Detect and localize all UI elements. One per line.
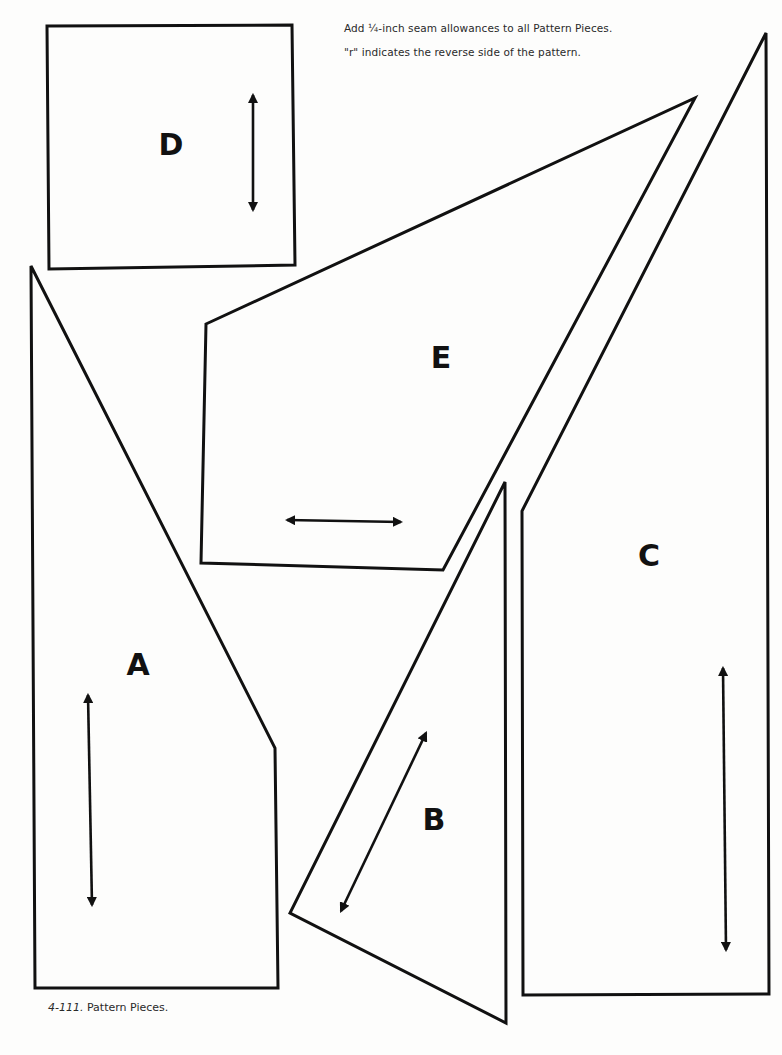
piece-label-e: E — [431, 340, 452, 375]
piece-label-c: C — [638, 538, 660, 573]
figure-caption-text: Pattern Pieces. — [87, 1001, 168, 1014]
figure-caption: 4-111. Pattern Pieces. — [48, 1001, 168, 1014]
pattern-piece-e: E — [201, 98, 695, 570]
pattern-piece-c: C — [522, 33, 769, 995]
pattern-piece-d: D — [47, 25, 295, 269]
piece-label-b: B — [423, 802, 446, 837]
pattern-piece-a: A — [31, 266, 278, 988]
grainline-arrow-icon — [88, 695, 92, 905]
piece-label-d: D — [159, 127, 184, 162]
pattern-piece-b: B — [290, 482, 506, 1023]
grainline-arrow-icon — [341, 733, 426, 911]
pattern-sheet: D E A B C — [0, 0, 782, 1055]
piece-label-a: A — [126, 647, 150, 682]
figure-number: 4-111. — [48, 1001, 83, 1014]
grainline-arrow-icon — [287, 520, 401, 522]
grainline-arrow-icon — [723, 668, 726, 950]
